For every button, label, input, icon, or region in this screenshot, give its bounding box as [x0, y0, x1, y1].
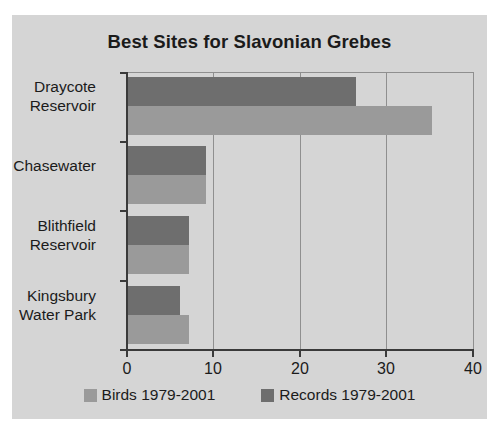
- bar-records-blithfield-reservoir: [128, 216, 189, 245]
- legend-swatch-records-icon: [261, 389, 274, 402]
- x-axis-label-40: 40: [453, 360, 493, 378]
- bar-records-chasewater: [128, 146, 206, 175]
- x-axis-label-20: 20: [280, 360, 320, 378]
- legend-item-birds: Birds 1979-2001: [84, 386, 216, 404]
- legend-swatch-birds-icon: [84, 389, 97, 402]
- category-label-line: Chasewater: [13, 156, 96, 175]
- x-axis-label-30: 30: [366, 360, 406, 378]
- category-label-line: Blithfield: [30, 216, 96, 235]
- category-label-kingsbury-water-park: Kingsbury Water Park: [19, 286, 96, 324]
- category-label-line: Kingsbury: [19, 286, 96, 305]
- chart-legend: Birds 1979-2001 Records 1979-2001: [12, 386, 487, 404]
- legend-label-birds: Birds 1979-2001: [102, 386, 216, 404]
- legend-label-records: Records 1979-2001: [279, 386, 415, 404]
- y-axis-tick: [120, 72, 128, 74]
- category-label-line: Reservoir: [30, 235, 96, 254]
- category-label-line: Reservoir: [30, 96, 96, 115]
- category-label-line: Water Park: [19, 305, 96, 324]
- chart-container: Best Sites for Slavonian Grebes Draycote…: [12, 15, 487, 419]
- category-label-draycote-reservoir: Draycote Reservoir: [30, 77, 96, 115]
- bar-birds-kingsbury-water-park: [128, 315, 189, 344]
- x-axis-tick: [126, 349, 128, 357]
- x-axis-label-10: 10: [193, 360, 233, 378]
- legend-item-records: Records 1979-2001: [261, 386, 415, 404]
- bar-birds-blithfield-reservoir: [128, 245, 189, 274]
- bar-records-draycote-reservoir: [128, 77, 356, 106]
- y-axis-tick: [120, 141, 128, 143]
- category-label-line: Draycote: [30, 77, 96, 96]
- y-axis-tick: [120, 210, 128, 212]
- chart-title: Best Sites for Slavonian Grebes: [12, 31, 487, 53]
- x-axis-tick: [212, 349, 214, 357]
- bar-birds-chasewater: [128, 175, 206, 204]
- x-axis-tick: [385, 349, 387, 357]
- x-axis-tick: [299, 349, 301, 357]
- bar-birds-draycote-reservoir: [128, 106, 432, 135]
- y-axis-tick: [120, 280, 128, 282]
- category-label-chasewater: Chasewater: [13, 156, 96, 175]
- category-label-blithfield-reservoir: Blithfield Reservoir: [30, 216, 96, 254]
- bar-records-kingsbury-water-park: [128, 286, 180, 315]
- x-axis-label-0: 0: [107, 360, 147, 378]
- x-axis-tick: [472, 349, 474, 357]
